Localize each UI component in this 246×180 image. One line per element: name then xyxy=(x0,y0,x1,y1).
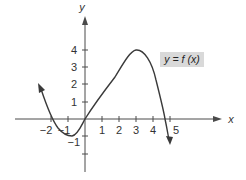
x-axis-label: x xyxy=(227,113,234,125)
y-tick-label: 3 xyxy=(71,61,77,73)
y-tick-label: 4 xyxy=(71,44,77,56)
legend-label: y = f (x) xyxy=(160,52,204,67)
y-axis-arrow-icon xyxy=(82,16,88,25)
y-tick-label: 1 xyxy=(71,96,77,108)
x-tick-label: −2 xyxy=(40,124,53,136)
curve-start-arrow-icon xyxy=(38,83,45,93)
y-tick-label: 2 xyxy=(71,78,77,90)
curve-end-arrow-icon xyxy=(166,136,173,145)
function-graph: −2 −1 1 2 3 4 5 4 3 2 1 −1 y x xyxy=(0,0,246,180)
x-tick-label: 2 xyxy=(116,124,122,136)
x-tick-label: 1 xyxy=(99,124,105,136)
x-tick-label: 5 xyxy=(173,124,179,136)
x-tick-label: 3 xyxy=(133,124,139,136)
y-tick-label: −1 xyxy=(67,136,80,148)
y-axis-label: y xyxy=(78,1,86,13)
x-tick-label: 4 xyxy=(150,124,156,136)
x-axis-arrow-icon xyxy=(213,116,222,122)
